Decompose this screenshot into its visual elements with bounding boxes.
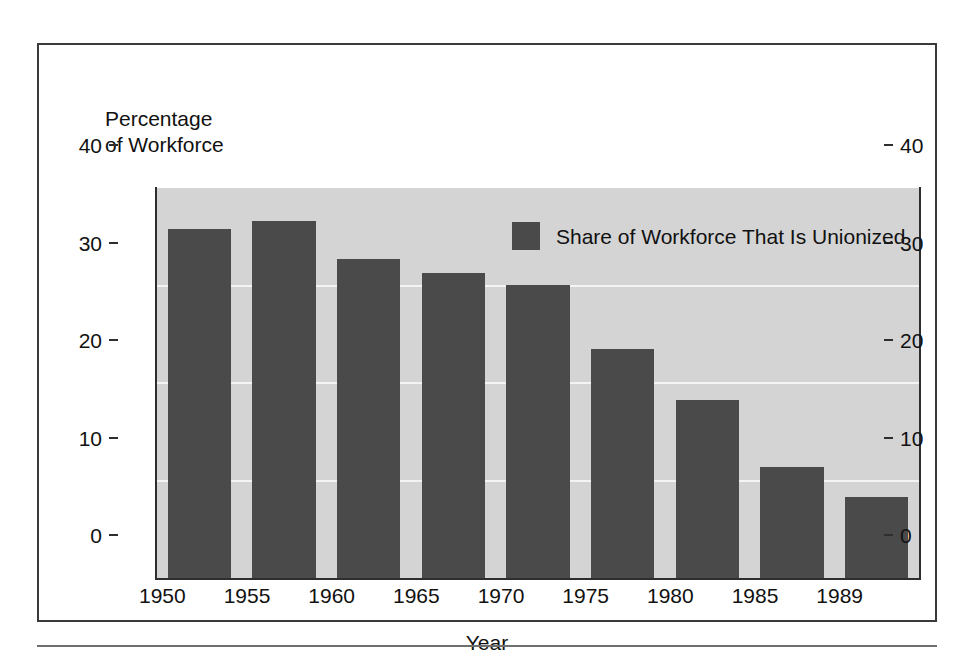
x-axis-title: Year — [39, 632, 935, 653]
x-tick-label-1955: 1955 — [205, 585, 290, 606]
y-tick-mark-left-40 — [109, 144, 118, 146]
x-tick-label-1975: 1975 — [543, 585, 628, 606]
y-tick-mark-right-10 — [884, 437, 893, 439]
x-tick-label-1970: 1970 — [459, 585, 544, 606]
legend-label: Share of Workforce That Is Unionized — [556, 226, 905, 247]
y-axis-left-spine — [155, 187, 157, 580]
bar-1955 — [252, 221, 315, 578]
y-tick-label-right-40: 40 — [900, 135, 923, 156]
x-tick-label-1950: 1950 — [120, 585, 205, 606]
x-tick-label-1989: 1989 — [797, 585, 882, 606]
y-tick-label-left-0: 0 — [48, 525, 102, 546]
y-tick-label-left-30: 30 — [48, 233, 102, 254]
y-tick-mark-right-20 — [884, 339, 893, 341]
y-tick-label-left-20: 20 — [48, 330, 102, 351]
x-tick-label-1980: 1980 — [628, 585, 713, 606]
x-tick-label-1960: 1960 — [289, 585, 374, 606]
y-tick-mark-left-20 — [109, 339, 118, 341]
y-tick-label-left-40: 40 — [48, 135, 102, 156]
y-tick-mark-left-30 — [109, 242, 118, 244]
figure-frame: Percentage of Workforce 0010102020303040… — [37, 43, 937, 622]
bar-1975 — [591, 349, 654, 578]
bottom-horizontal-rule — [37, 645, 937, 647]
bar-1989 — [845, 497, 908, 578]
y-tick-mark-left-10 — [109, 437, 118, 439]
bar-1960 — [337, 259, 400, 578]
bar-1985 — [760, 467, 823, 578]
bar-1950 — [168, 229, 231, 578]
y-tick-mark-right-40 — [884, 144, 893, 146]
y-tick-label-right-10: 10 — [900, 428, 923, 449]
x-tick-label-1985: 1985 — [713, 585, 798, 606]
y-tick-label-left-10: 10 — [48, 428, 102, 449]
y-tick-mark-right-0 — [884, 534, 893, 536]
bar-1970 — [506, 285, 569, 578]
bar-1965 — [422, 273, 485, 578]
y-tick-label-right-0: 0 — [900, 525, 912, 546]
x-axis-spine — [155, 578, 921, 580]
x-tick-label-1965: 1965 — [374, 585, 459, 606]
y-axis-caption: Percentage of Workforce — [105, 106, 224, 158]
y-tick-label-right-20: 20 — [900, 330, 923, 351]
chart-legend: Share of Workforce That Is Unionized — [512, 222, 905, 250]
bar-1980 — [676, 400, 739, 578]
legend-color-swatch — [512, 222, 540, 250]
y-tick-mark-left-0 — [109, 534, 118, 536]
